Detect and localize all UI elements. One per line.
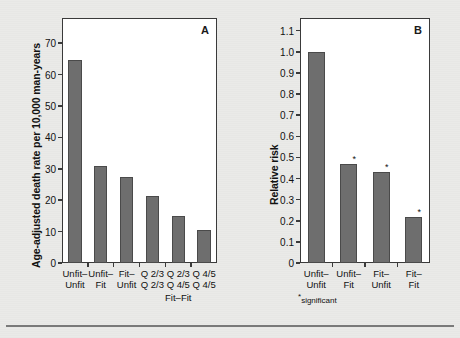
x-axis-tick-label-line: Unfit– [304, 268, 329, 279]
x-axis-tick-label-line: Q 4/5 [192, 279, 215, 290]
x-axis-group-label: Fit–Fit [165, 292, 191, 303]
x-axis-tick-label: Unfit–Fit [336, 268, 361, 290]
y-axis-tick [296, 51, 300, 53]
footnote-text: significant [301, 296, 337, 305]
y-axis-tick [296, 114, 300, 116]
y-axis-tick-label: 0.6 [274, 131, 294, 142]
bar [68, 60, 81, 263]
y-axis-tick [296, 178, 300, 180]
x-axis-tick-label-line: Unfit– [336, 268, 361, 279]
y-axis-tick [296, 157, 300, 159]
x-axis-tick-label: Unfit–Unfit [62, 268, 87, 290]
x-axis-tick-label-line: Fit [88, 279, 113, 290]
x-axis-tick [139, 263, 141, 267]
x-axis-tick-label-line: Q 2/3 [167, 268, 190, 279]
y-axis-title: Relative risk [268, 144, 280, 205]
y-axis-tick-label: 0.1 [274, 236, 294, 247]
x-axis-tick-label-line: Fit– [406, 268, 422, 279]
y-axis-tick [296, 241, 300, 243]
y-axis-tick-label: 1.1 [274, 25, 294, 36]
x-axis-tick [397, 263, 399, 267]
bar [340, 164, 357, 263]
y-axis-tick [296, 220, 300, 222]
bar [146, 196, 159, 263]
x-axis-tick-label-line: Fit– [117, 268, 137, 279]
bar [120, 177, 133, 263]
x-axis-tick [165, 263, 167, 267]
bar [197, 230, 210, 263]
figure-canvas: A010203040506070Age-adjusted death rate … [0, 0, 460, 338]
y-axis-tick [296, 30, 300, 32]
y-axis-tick [58, 262, 62, 264]
x-axis-tick-label-line: Q 4/5 [167, 279, 190, 290]
y-axis-tick-label: 0.8 [274, 89, 294, 100]
y-axis-tick [58, 105, 62, 107]
x-axis-tick [87, 263, 89, 267]
y-axis-tick [58, 137, 62, 139]
bar [94, 166, 107, 263]
y-axis-tick [296, 93, 300, 95]
bar [308, 52, 325, 263]
y-axis-tick [296, 136, 300, 138]
x-axis-tick-label: Fit–Fit [406, 268, 422, 290]
x-axis-tick-label: Q 2/3Q 2/3 [141, 268, 164, 290]
figure-bottom-rule [6, 325, 454, 327]
plot-area-a [62, 18, 217, 263]
y-axis-tick [296, 72, 300, 74]
x-axis-tick-label-line: Unfit [117, 279, 137, 290]
x-axis-tick [364, 263, 366, 267]
footnote: *significant [298, 292, 337, 305]
x-axis-tick-label-line: Q 4/5 [192, 268, 215, 279]
x-axis-tick-label-line: Unfit [371, 279, 391, 290]
y-axis-tick [58, 74, 62, 76]
x-axis-tick-label-line: Fit [406, 279, 422, 290]
bar [405, 217, 422, 263]
x-axis-tick-label: Fit–Unfit [117, 268, 137, 290]
y-axis-tick-label: 0.9 [274, 67, 294, 78]
x-axis-tick-label-line: Unfit [304, 279, 329, 290]
y-axis-tick-label: 1.0 [274, 46, 294, 57]
y-axis-tick-label: 0 [274, 258, 294, 269]
x-axis-tick-label-line: Unfit– [88, 268, 113, 279]
x-axis-tick-label-line: Fit– [371, 268, 391, 279]
x-axis-tick-label-line: Unfit– [62, 268, 87, 279]
y-axis-tick [296, 262, 300, 264]
y-axis-title: Age-adjusted death rate per 10,000 man-y… [30, 43, 42, 268]
y-axis-tick [58, 168, 62, 170]
y-axis-tick-label: 0.7 [274, 110, 294, 121]
x-axis-tick-label: Q 4/5Q 4/5 [192, 268, 215, 290]
x-axis-tick [190, 263, 192, 267]
x-axis-tick-label-line: Q 2/3 [141, 279, 164, 290]
x-axis-tick-label: Unfit–Unfit [304, 268, 329, 290]
bar [172, 216, 185, 263]
x-axis-tick-label-line: Q 2/3 [141, 268, 164, 279]
panel-letter-b: B [414, 24, 422, 36]
x-axis-tick [332, 263, 334, 267]
significance-asterisk: * [385, 163, 389, 172]
x-axis-tick [113, 263, 115, 267]
bar [373, 172, 390, 263]
y-axis-tick-label: 0.2 [274, 215, 294, 226]
x-axis-tick-label: Unfit–Fit [88, 268, 113, 290]
x-axis-tick-label: Q 2/3Q 4/5 [167, 268, 190, 290]
y-axis-tick [58, 42, 62, 44]
significance-asterisk: * [417, 208, 421, 217]
panel-letter-a: A [201, 24, 209, 36]
x-axis-tick-label: Fit–Unfit [371, 268, 391, 290]
x-axis-tick-label-line: Fit [336, 279, 361, 290]
y-axis-tick [58, 199, 62, 201]
x-axis-tick-label-line: Unfit [62, 279, 87, 290]
significance-asterisk: * [352, 155, 356, 164]
y-axis-tick [296, 199, 300, 201]
y-axis-tick [58, 231, 62, 233]
